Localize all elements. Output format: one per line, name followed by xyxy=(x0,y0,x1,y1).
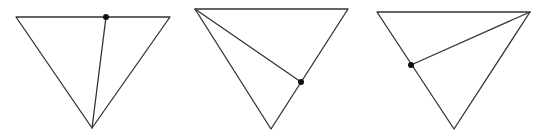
triangle-2-cevian xyxy=(195,9,301,82)
triangle-3-outline xyxy=(377,12,530,129)
triangle-1-outline xyxy=(16,17,170,128)
triangle-1-point xyxy=(103,14,109,20)
triangle-1-group xyxy=(16,14,170,128)
triangle-2-group xyxy=(195,9,348,129)
triangle-2-point xyxy=(298,79,304,85)
triangle-2-outline xyxy=(195,9,348,129)
triangle-3-point xyxy=(408,62,414,68)
triangle-3-group xyxy=(377,12,530,129)
triangle-diagram xyxy=(0,0,546,136)
